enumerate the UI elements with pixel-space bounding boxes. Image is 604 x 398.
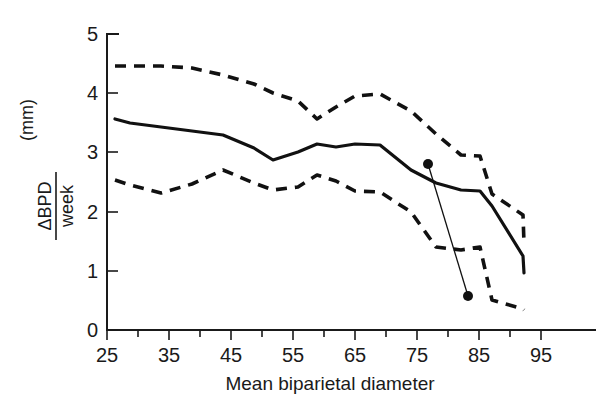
y-axis-title-group: ΔBPD week (mm)	[17, 99, 77, 240]
x-tick-label-75: 75	[406, 344, 428, 366]
patient-trend-line	[428, 164, 468, 296]
x-tick-label-95: 95	[530, 344, 552, 366]
y-tick-label-0: 0	[87, 319, 98, 341]
y-axis-units: (mm)	[17, 99, 37, 141]
axes-group	[107, 34, 595, 330]
x-tick-label-85: 85	[468, 344, 490, 366]
y-tick-label-4: 4	[87, 82, 98, 104]
x-tick-label-35: 35	[158, 344, 180, 366]
x-tick-label-65: 65	[344, 344, 366, 366]
series-upper-dashed	[115, 66, 524, 243]
series-group	[115, 66, 524, 310]
chart-svg: 5 4 3 2 1 0	[0, 0, 604, 398]
y-tick-labels-group: 5 4 3 2 1 0	[87, 23, 98, 341]
chart-figure: 5 4 3 2 1 0	[0, 0, 604, 398]
y-tick-label-3: 3	[87, 141, 98, 163]
y-tick-label-1: 1	[87, 260, 98, 282]
patient-point-upper	[423, 159, 433, 169]
x-tick-label-55: 55	[282, 344, 304, 366]
y-axis-denominator: week	[57, 184, 77, 228]
y-tick-label-2: 2	[87, 201, 98, 223]
y-axis-numerator: ΔBPD	[35, 181, 55, 230]
y-tick-label-5: 5	[87, 23, 98, 45]
x-tick-label-25: 25	[96, 344, 118, 366]
patient-point-lower	[463, 291, 473, 301]
x-axis-title: Mean biparietal diameter	[225, 373, 435, 394]
x-minor-ticks-group	[138, 330, 510, 337]
x-tick-label-45: 45	[220, 344, 242, 366]
x-tick-labels-group: 25 35 45 55 65 75 85 95	[96, 344, 552, 366]
